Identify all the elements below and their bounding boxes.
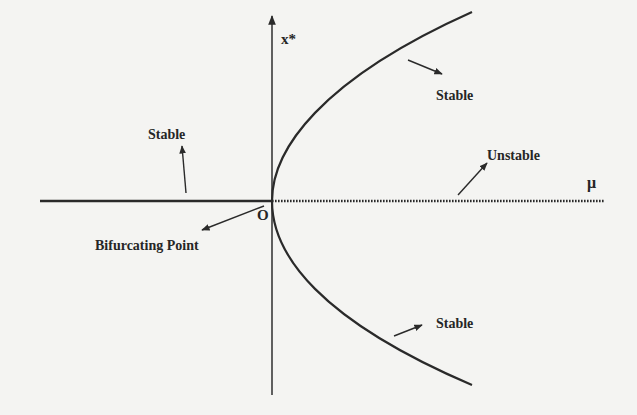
- arrow-icon: [182, 146, 186, 193]
- origin-label: O: [257, 207, 269, 223]
- stable-left-label: Stable: [148, 127, 185, 142]
- lower-stable-branch: [272, 201, 472, 385]
- bifurcating-point-label: Bifurcating Point: [95, 238, 199, 253]
- arrow-icon: [458, 163, 487, 195]
- y-axis-label: x*: [281, 31, 296, 47]
- arrow-icon: [408, 60, 442, 74]
- unstable-label: Unstable: [487, 148, 540, 163]
- stable-upper-label: Stable: [436, 88, 473, 103]
- bifurcation-diagram: x* μ O Stable Stable Unstable Bifurcatin…: [0, 0, 637, 415]
- upper-stable-branch: [272, 12, 472, 201]
- x-axis-label: μ: [587, 174, 596, 192]
- arrow-icon: [202, 206, 264, 230]
- stable-lower-label: Stable: [436, 316, 473, 331]
- arrow-icon: [394, 325, 422, 336]
